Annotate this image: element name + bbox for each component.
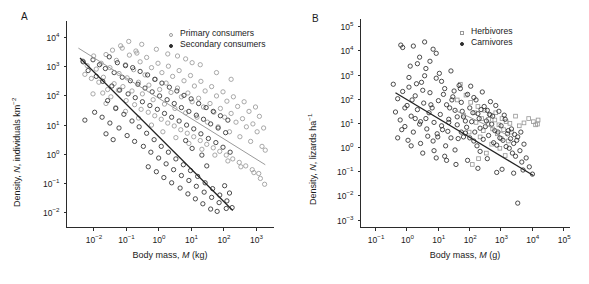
data-point (253, 105, 257, 109)
data-point (192, 135, 196, 139)
x-tick: 103 (500, 227, 501, 231)
data-point (144, 131, 148, 135)
data-point (229, 77, 233, 81)
x-tick: 101 (438, 227, 439, 231)
data-point (154, 47, 158, 51)
y-title-text-b1: Density, (308, 171, 318, 205)
legend-label: Primary consumers (180, 29, 254, 38)
data-point (413, 116, 417, 120)
data-point (127, 39, 131, 43)
y-tick: 103 (64, 66, 68, 67)
scatter-plot (361, 19, 570, 227)
panel-b-letter: B (312, 13, 319, 24)
data-point (396, 136, 400, 140)
data-point (227, 191, 231, 195)
data-point (251, 122, 255, 126)
data-point (206, 136, 210, 140)
data-point (183, 138, 187, 142)
data-point (185, 131, 189, 135)
panel-b-legend: HerbivoresCarnivores (457, 26, 513, 48)
data-point (147, 83, 151, 87)
data-point (209, 207, 213, 211)
panel-a-letter: A (21, 11, 28, 22)
y-tick: 10−3 (358, 220, 362, 221)
data-point (406, 138, 410, 142)
data-point (193, 197, 197, 201)
data-point (244, 164, 248, 168)
data-point (234, 120, 238, 124)
data-point (121, 84, 125, 88)
x-title-italic-b: M (479, 250, 487, 260)
data-point (100, 115, 104, 119)
x-tick: 10−1 (375, 227, 376, 231)
data-point (125, 133, 129, 137)
data-point (443, 144, 447, 148)
data-point (226, 159, 230, 163)
y-tick-label: 100 (47, 150, 60, 159)
legend-marker (169, 44, 173, 48)
data-point (443, 154, 447, 158)
data-point (461, 135, 465, 139)
y-tick: 104 (358, 50, 362, 51)
x-tick-label: 10−2 (86, 236, 103, 245)
panel-b-x-axis-title: Body mass, M (g) (360, 250, 570, 260)
data-point (149, 150, 153, 154)
data-point (170, 74, 174, 78)
data-point (133, 96, 137, 100)
x-tick: 10−1 (126, 227, 127, 231)
data-point (108, 121, 112, 125)
x-title-text-b2: (g) (487, 250, 501, 260)
data-point (476, 166, 480, 170)
data-point (171, 168, 175, 172)
data-point (493, 118, 497, 122)
data-point (238, 135, 242, 139)
panel-b-y-axis-title: Density, N, lizards ha−1 (308, 114, 318, 205)
data-point (130, 89, 134, 93)
data-point (200, 147, 204, 151)
data-point (130, 119, 134, 123)
y-tick: 105 (358, 26, 362, 27)
data-point (214, 140, 218, 144)
data-point (198, 63, 202, 67)
data-point (422, 40, 426, 44)
data-point (424, 116, 428, 120)
data-point (398, 118, 402, 122)
data-point (263, 148, 267, 152)
data-point (469, 101, 473, 105)
data-point (186, 192, 190, 196)
data-point (465, 158, 469, 162)
data-point (468, 106, 472, 110)
data-point (111, 138, 115, 142)
data-point (146, 110, 150, 114)
data-point (432, 120, 436, 124)
data-point (413, 94, 417, 98)
data-point (453, 148, 457, 152)
data-point (536, 118, 540, 122)
data-point (157, 87, 161, 91)
data-point (446, 129, 450, 133)
data-point (205, 142, 209, 146)
data-point (169, 90, 173, 94)
data-point (201, 117, 205, 121)
y-tick-label: 101 (47, 121, 60, 130)
x-tick-label: 102 (464, 236, 477, 245)
data-point (201, 202, 205, 206)
legend-marker (460, 42, 464, 46)
data-point (248, 139, 252, 143)
figure-root: A Density, N, individuals km−2 10−210−11… (0, 0, 589, 284)
data-point (436, 99, 440, 103)
data-point (508, 122, 512, 126)
data-point (459, 100, 463, 104)
data-point (198, 138, 202, 142)
data-point (179, 173, 183, 177)
y-tick: 101 (64, 125, 68, 126)
data-point (162, 111, 166, 115)
data-point (478, 126, 482, 130)
x-tick-label: 100 (153, 236, 166, 245)
data-point (432, 149, 436, 153)
data-point (428, 91, 432, 95)
x-title-text-b1: Body mass, (430, 250, 480, 260)
data-point (187, 178, 191, 182)
data-point (455, 123, 459, 127)
data-point (177, 119, 181, 123)
